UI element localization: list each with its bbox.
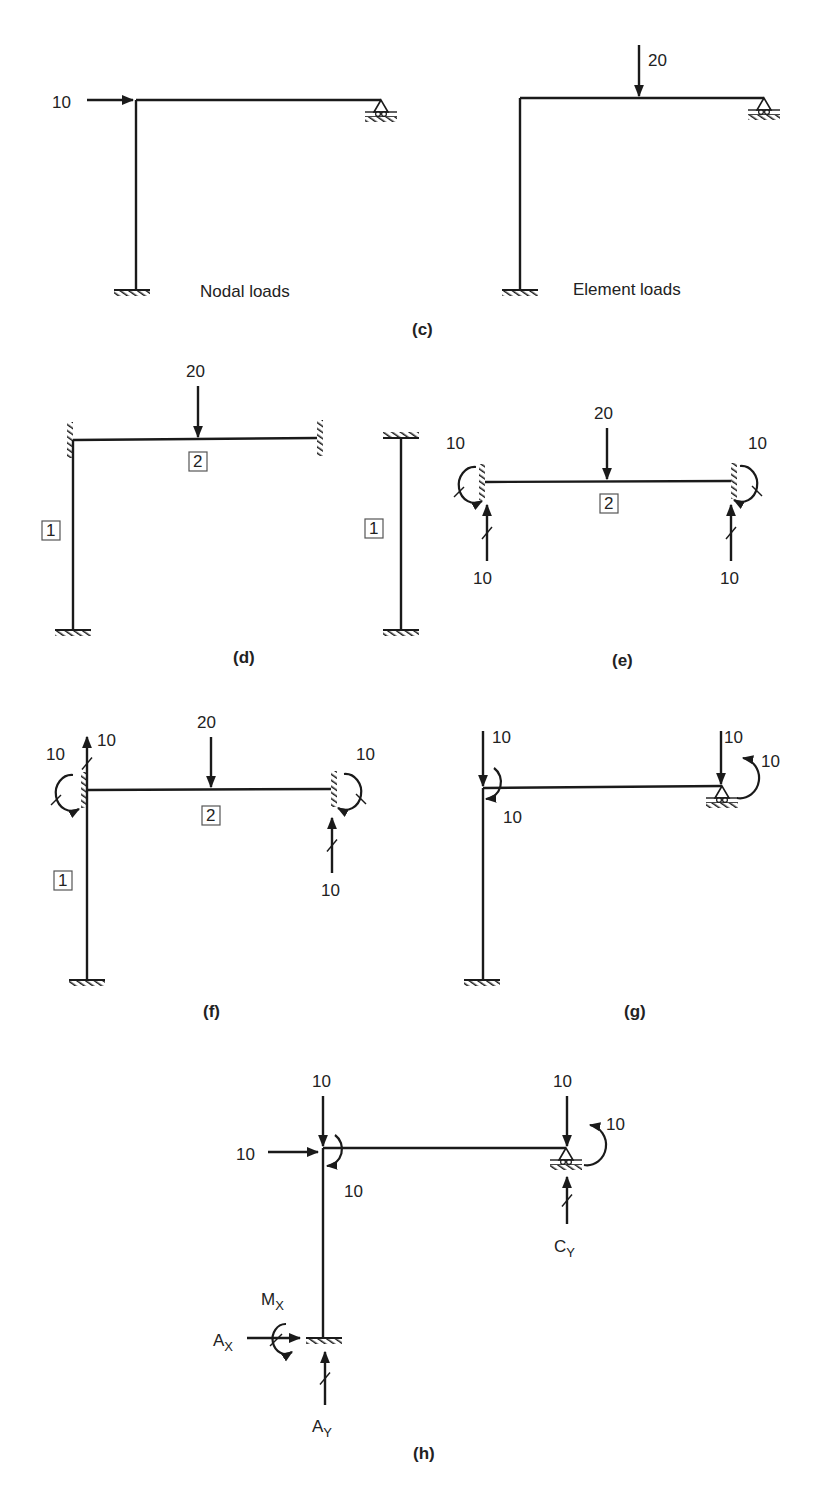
support-roller [748,98,780,120]
subfigure-combined-loads-and-reactions: 101010CYAXAY1010MX [213,1072,625,1440]
pin-triangle-icon [374,100,388,112]
support-fixed-vertical-right [317,420,323,456]
subfigure-frame-with-reversed-reactions: 201010101021 [46,713,375,986]
support-fixed-horizontal [502,290,538,296]
element-number-label: 2 [206,806,215,825]
force-value-label: 10 [52,93,71,112]
panel-g: 10101010(g) [464,728,780,1021]
support-fixed-vertical-right [331,771,337,807]
fixed-support-hatch [331,771,337,807]
panel-e: 20101010102(e) [446,404,767,670]
element-number-label: 1 [46,521,55,540]
support-roller [706,786,738,808]
force-value-label: CY [554,1237,575,1260]
moment-arrow-icon [737,758,759,798]
panel-h: 101010CYAXAY1010MX(h) [213,1072,625,1463]
fixed-support-hatch [731,463,737,499]
subfigure-beam-fixed-end-reactions: 20101010102 [446,404,767,588]
subfigure-frame-separated: 2021 [42,362,323,636]
moment-value-label: 10 [344,1182,363,1201]
support-roller [550,1148,582,1170]
subfigure-column-isolated: 1 [365,432,419,636]
frame-member [73,438,317,440]
panel-c: 10Nodal loads20Element loads(c) [52,45,780,339]
moment-arrow-icon [584,1125,606,1165]
moment-value-label: 10 [606,1115,625,1134]
moment-value-label: 10 [761,752,780,771]
frame-member [483,786,722,788]
moment-arrow-icon [459,467,482,503]
panel-caption: (e) [612,651,633,670]
panel-d: 20211(d) [42,362,419,667]
subfigure-label: Nodal loads [200,282,290,301]
moment-arrow-icon [338,774,361,810]
element-number-label: 1 [58,871,67,890]
element-number-label: 2 [193,452,202,471]
subfigure-label: Element loads [573,280,681,299]
force-value-label: 10 [553,1072,572,1091]
moment-value-label: MX [261,1290,284,1313]
support-fixed-horizontal-top [383,432,419,438]
support-fixed-horizontal [306,1338,342,1344]
force-value-label: 10 [492,728,511,747]
force-value-label: 10 [97,731,116,750]
support-fixed-vertical-left [479,464,485,500]
moment-value-label: 10 [46,745,65,764]
element-number-label: 2 [604,494,613,513]
pin-triangle-icon [559,1148,573,1160]
force-value-label: 20 [197,713,216,732]
panel-caption: (c) [412,320,433,339]
force-value-label: AX [213,1331,233,1354]
diagram-layer: 10Nodal loads20Element loads(c)20211(d)2… [42,45,780,1463]
support-fixed-horizontal [55,630,91,636]
moment-value-label: 10 [356,745,375,764]
subfigure-element-loads: 20Element loads [502,45,780,299]
frame-member [87,789,331,790]
force-value-label: 10 [724,728,743,747]
panel-caption: (d) [233,648,255,667]
subfigure-equivalent-nodal-loads: 10101010 [464,728,780,986]
support-fixed-horizontal [114,290,150,296]
support-fixed-horizontal [383,630,419,636]
panel-f: 201010101021(f) [46,713,375,1021]
moment-arrow-icon [56,775,79,811]
force-value-label: 20 [648,51,667,70]
force-value-label: 10 [473,569,492,588]
force-value-label: 10 [236,1145,255,1164]
panel-caption: (f) [203,1002,220,1021]
fixed-support-hatch [317,420,323,456]
force-value-label: 20 [186,362,205,381]
moment-value-label: 10 [446,434,465,453]
moment-arrow-icon [486,768,501,799]
support-fixed-horizontal [69,980,105,986]
moment-value-label: 10 [503,808,522,827]
panel-caption: (g) [624,1002,646,1021]
element-number-label: 1 [369,519,378,538]
moment-value-label: 10 [748,434,767,453]
pin-triangle-icon [715,786,729,798]
force-value-label: 10 [312,1072,331,1091]
subfigure-nodal-loads: 10Nodal loads [52,93,397,301]
moment-arrow-icon [327,1135,342,1166]
support-roller [365,100,397,122]
structural-frame-figure: 10Nodal loads20Element loads(c)20211(d)2… [0,0,826,1505]
frame-member [485,481,731,482]
moment-arrow-icon [734,466,757,502]
panel-caption: (h) [413,1444,435,1463]
force-value-label: 10 [720,569,739,588]
force-value-label: AY [312,1417,332,1440]
support-fixed-horizontal [464,980,500,986]
fixed-support-hatch [479,464,485,500]
pin-triangle-icon [757,98,771,110]
force-value-label: 20 [594,404,613,423]
force-value-label: 10 [321,881,340,900]
support-fixed-vertical-right [731,463,737,499]
